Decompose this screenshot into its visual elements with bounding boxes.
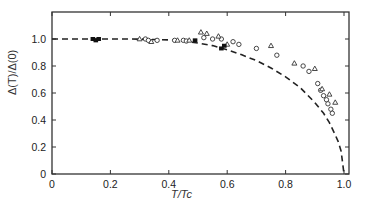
chart: 00.20.40.60.81.000.20.40.60.81.0 Δ(T)/Δ(… <box>0 0 368 213</box>
y-tick-label: 0.6 <box>31 87 46 99</box>
data-point-triangle <box>204 31 209 35</box>
x-tick-label: 0.2 <box>103 178 118 190</box>
y-axis-label: Δ(T)/Δ(0) <box>6 50 18 95</box>
data-point-circle <box>330 111 334 115</box>
data-point-circle <box>321 94 325 98</box>
data-point-triangle <box>216 34 221 38</box>
data-point-circle <box>316 81 320 85</box>
x-tick-label: 0.6 <box>220 178 235 190</box>
data-point-filled <box>193 38 198 42</box>
data-point-triangle <box>292 61 297 65</box>
data-point-circle <box>155 38 159 42</box>
y-tick-label: 0.4 <box>31 114 46 126</box>
data-point-triangle <box>312 66 317 70</box>
data-point-circle <box>237 42 241 46</box>
data-point-circle <box>254 46 258 50</box>
y-tick-label: 1.0 <box>31 33 46 45</box>
data-point-circle <box>202 35 206 39</box>
data-point-triangle <box>320 86 325 90</box>
y-tick-label: 0 <box>40 168 46 180</box>
data-point-circle <box>326 102 330 106</box>
data-point-circle <box>210 37 214 41</box>
data-point-circle <box>275 53 279 57</box>
y-tick-label: 0.2 <box>31 141 46 153</box>
x-axis-label: T/Tc <box>171 188 192 200</box>
data-point-triangle <box>198 30 203 34</box>
x-tick-label: 1.0 <box>337 178 352 190</box>
y-tick-label: 0.8 <box>31 60 46 72</box>
data-point-circle <box>301 64 305 68</box>
data-point-circle <box>307 69 311 73</box>
data-point-triangle <box>187 38 192 42</box>
data-point-triangle <box>137 36 142 40</box>
x-tick-label: 0 <box>49 178 55 190</box>
data-point-triangle <box>333 100 338 104</box>
x-tick-label: 0.8 <box>278 178 293 190</box>
data-point-triangle <box>269 43 274 47</box>
data-point-triangle <box>327 92 332 96</box>
data-point-circle <box>231 40 235 44</box>
data-point-filled <box>96 37 101 41</box>
plot-area: 00.20.40.60.81.000.20.40.60.81.0 <box>0 0 368 213</box>
bcs-curve <box>52 39 344 174</box>
data-point-filled <box>222 44 227 48</box>
